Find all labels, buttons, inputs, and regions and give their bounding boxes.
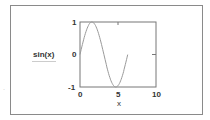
plot-area xyxy=(0,0,210,120)
xtick-5: 5 xyxy=(116,90,120,99)
sin-curve xyxy=(80,22,128,87)
xtick-0: 0 xyxy=(78,90,82,99)
xtick-10: 10 xyxy=(152,90,161,99)
stray-mark: · xyxy=(3,86,5,92)
y-label-underline xyxy=(32,61,56,62)
ytick-1: 1 xyxy=(72,18,76,27)
axes-box xyxy=(80,22,156,87)
ytick-minus1: -1 xyxy=(68,83,75,92)
x-axis-label: x xyxy=(117,99,121,108)
ytick-0: 0 xyxy=(72,50,76,59)
y-axis-label: sin(x) xyxy=(33,50,54,59)
